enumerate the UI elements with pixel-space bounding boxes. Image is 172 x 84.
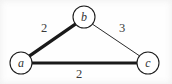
edge-weight-a-b: 2	[41, 21, 47, 35]
graph-canvas: a b c 2 3 2	[0, 0, 172, 84]
edge-weight-b-c: 3	[119, 21, 125, 35]
graph-figure: a b c 2 3 2	[0, 0, 172, 84]
edge-b-c	[93, 24, 140, 55]
node-a-label: a	[18, 56, 24, 70]
edge-weight-a-c: 2	[76, 67, 82, 81]
edge-a-b	[30, 24, 76, 56]
node-b-label: b	[81, 10, 87, 24]
node-c-label: c	[145, 56, 151, 70]
